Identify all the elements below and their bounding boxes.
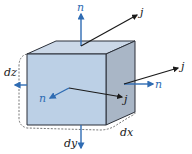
label-j-top: j — [137, 6, 144, 19]
label-j-right: j — [178, 60, 185, 73]
cube-side-face — [106, 41, 135, 125]
label-dx: dx — [120, 126, 134, 139]
label-n-top: n — [77, 1, 84, 14]
label-n-right: n — [155, 78, 162, 91]
label-dy: dy — [64, 137, 78, 150]
cube-diagram: n j j n dz n j dx dy — [0, 0, 192, 154]
label-n-front: n — [39, 92, 46, 105]
label-dz: dz — [4, 66, 17, 79]
